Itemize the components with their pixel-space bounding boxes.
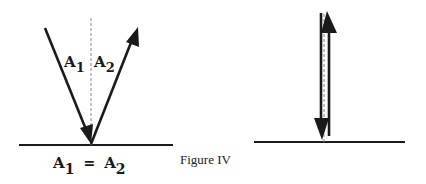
incident-ray: [45, 28, 87, 132]
figure-caption: Figure IV: [180, 152, 232, 167]
down-arrowhead-icon: [314, 118, 329, 140]
reflected-arrowhead-icon: [126, 27, 139, 47]
left-panel-oblique-reflection: A1 A2 A1=A2: [19, 18, 173, 177]
reflection-diagram: A1 A2 A1=A2 Figure IV: [0, 0, 426, 184]
equation-a1-equals-a2: A1=A2: [52, 154, 126, 177]
angle-label-a2: A2: [93, 53, 115, 75]
up-arrowhead-icon: [321, 11, 337, 33]
angle-label-a1: A1: [63, 53, 85, 75]
right-panel-normal-reflection: [254, 11, 405, 142]
